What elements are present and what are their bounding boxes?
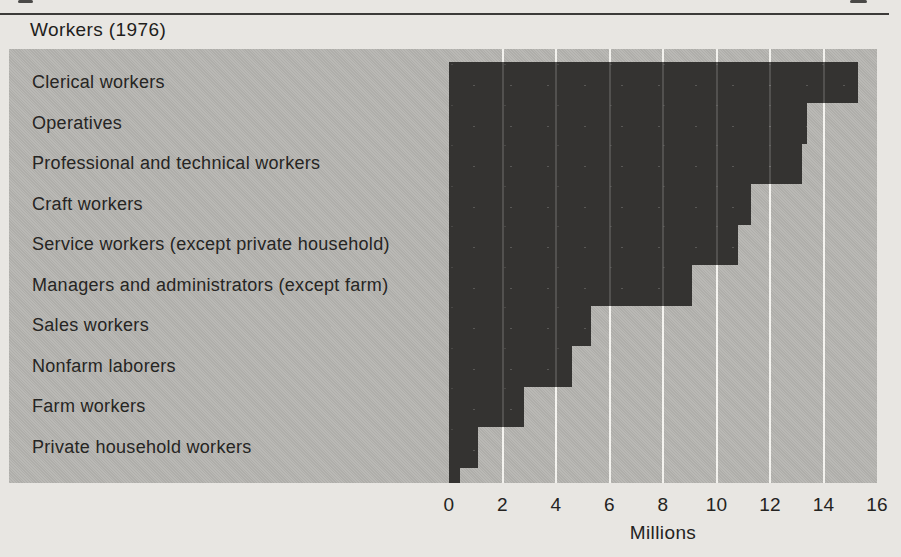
tick-label: 14 [813,494,835,516]
x-axis-title: Millions [630,522,697,544]
category-label: Nonfarm laborers [32,346,176,387]
scan-artifact-top-right [850,0,867,3]
category-label: Managers and administrators (except farm… [32,265,388,306]
tick-label: 12 [759,494,781,516]
gridline-overlay [502,62,504,467]
category-label: Clerical workers [32,62,165,103]
category-label: Professional and technical workers [32,143,320,184]
x-axis-zero-tick [449,467,460,483]
gridline-overlay [769,62,771,467]
gridline-overlay [823,62,825,467]
tick-label: 0 [444,494,455,516]
tick-label: 2 [497,494,508,516]
bar [449,346,572,387]
bar [449,386,524,427]
top-rule [0,13,889,15]
scan-artifact-top-left [18,0,33,3]
plot-area: Clerical workersOperativesProfessional a… [9,49,877,483]
tick-label: 16 [866,494,888,516]
gridline-overlay [716,62,718,467]
category-label: Craft workers [32,184,143,225]
gridline-overlay [662,62,664,467]
bar [449,265,692,306]
gridline-overlay [555,62,557,467]
category-label: Private household workers [32,427,252,468]
tick-label: 10 [706,494,728,516]
bar [449,427,478,468]
bar [449,224,738,265]
figure-page: { "chart_data": { "type": "bar", "orient… [0,0,901,557]
bar [449,62,858,103]
bar [449,184,751,225]
tick-label: 4 [551,494,562,516]
category-label: Service workers (except private househol… [32,224,390,265]
category-label: Operatives [32,103,122,144]
gridline-overlay [609,62,611,467]
tick-label: 8 [658,494,669,516]
bar [449,305,591,346]
category-label: Farm workers [32,386,146,427]
chart-title: Workers (1976) [30,19,166,41]
category-label: Sales workers [32,305,149,346]
tick-label: 6 [604,494,615,516]
